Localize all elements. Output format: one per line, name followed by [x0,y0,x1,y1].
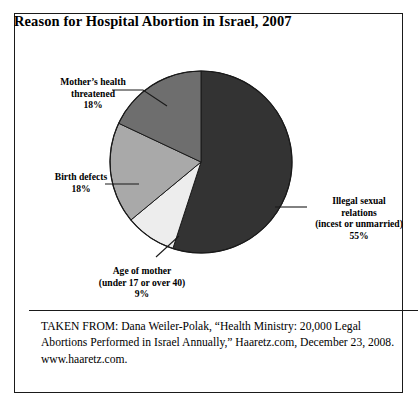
pie-label-illegal-sexual: Illegal sexualrelations(incest or unmarr… [295,195,420,242]
figure-title: Reason for Hospital Abortion in Israel, … [14,13,292,30]
pie-chart-area: Mother’s healththreatened18% Birth defec… [15,14,404,302]
pie-label-birth-defects: Birth defects18% [23,171,139,194]
figure-frame: Mother’s healththreatened18% Birth defec… [14,13,403,393]
figure-caption: TAKEN FROM: Dana Weiler-Polak, “Health M… [41,319,399,368]
caption-divider [29,310,418,311]
pie-label-mothers-health: Mother’s healththreatened18% [31,76,155,111]
pie-chart-svg [15,14,404,302]
pie-label-age-of-mother: Age of mother(under 17 or over 40)9% [66,265,218,300]
